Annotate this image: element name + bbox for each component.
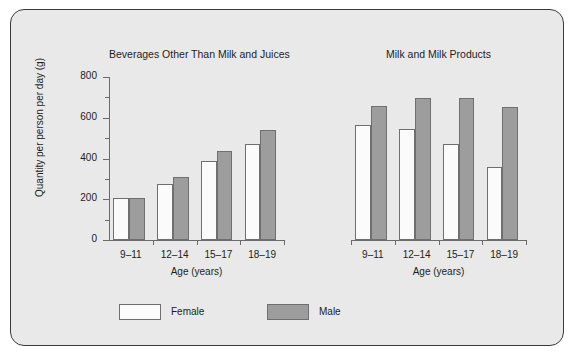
x-axis-category-label: 15–17 [197, 249, 241, 260]
x-axis-tick [439, 241, 440, 245]
bar-male-9-11 [371, 106, 387, 240]
x-axis-tick [482, 241, 483, 245]
y-axis-tick-label: 600 [63, 111, 97, 122]
y-axis-tick-label: 200 [63, 192, 97, 203]
x-axis-tick [197, 241, 198, 245]
legend-swatch-female [119, 304, 161, 320]
y-axis-tick-label: 400 [63, 152, 97, 163]
chart-title-beverages: Beverages Other Than Milk and Juices [109, 48, 284, 60]
chart-beverages [109, 77, 284, 241]
x-axis-tick [240, 241, 241, 245]
chart-milk [351, 77, 526, 241]
x-axis-title-beverages: Age (years) [109, 266, 284, 277]
bar-female-9-11 [355, 125, 371, 240]
bar-female-18-19 [245, 144, 261, 240]
y-axis-tick-label: 800 [63, 70, 97, 81]
bar-female-18-19 [487, 167, 503, 240]
bar-male-15-17 [459, 98, 475, 240]
x-axis-tick [284, 241, 285, 245]
x-axis-title-milk: Age (years) [351, 266, 526, 277]
x-axis-tick [351, 241, 352, 245]
y-axis-tick-label: 0 [63, 233, 97, 244]
x-axis-category-label: 15–17 [439, 249, 483, 260]
bar-female-15-17 [443, 144, 459, 240]
y-axis-label: Quantity per person per day (g) [34, 38, 45, 218]
bar-male-18-19 [260, 130, 276, 240]
x-axis-tick [526, 241, 527, 245]
legend-label-female: Female [171, 306, 204, 317]
x-axis-tick [153, 241, 154, 245]
bar-female-9-11 [113, 198, 129, 240]
bar-male-12-14 [415, 98, 431, 240]
bar-female-15-17 [201, 161, 217, 240]
x-axis-category-label: 12–14 [153, 249, 197, 260]
bar-male-9-11 [129, 198, 145, 240]
bar-female-12-14 [157, 184, 173, 240]
x-axis-category-label: 18–19 [482, 249, 526, 260]
legend-swatch-male [267, 304, 309, 320]
x-axis-tick [395, 241, 396, 245]
bar-male-12-14 [173, 177, 189, 240]
legend-label-male: Male [319, 306, 341, 317]
x-axis-category-label: 9–11 [351, 249, 395, 260]
chart-title-milk: Milk and Milk Products [351, 48, 526, 60]
bar-female-12-14 [399, 129, 415, 240]
x-axis-category-label: 18–19 [240, 249, 284, 260]
bar-male-18-19 [502, 107, 518, 240]
x-axis-category-label: 12–14 [395, 249, 439, 260]
bar-male-15-17 [217, 151, 233, 240]
figure-frame: Quantity per person per day (g) 02004006… [10, 9, 564, 346]
x-axis-category-label: 9–11 [109, 249, 153, 260]
